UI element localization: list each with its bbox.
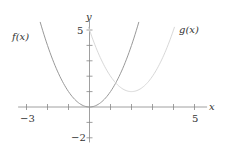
f-label: f(x) bbox=[11, 31, 29, 42]
y-axis-label: y bbox=[85, 11, 92, 22]
tick-label-x-5: 5 bbox=[192, 113, 198, 124]
x-axis-label: x bbox=[209, 101, 215, 112]
curves bbox=[40, 22, 174, 107]
tick-label-y-5: 5 bbox=[77, 25, 83, 36]
chart: f(x) g(x) y x −3 5 5 −2 bbox=[0, 0, 227, 152]
tick-label-x-neg3: −3 bbox=[20, 113, 35, 124]
tick-label-y-neg2: −2 bbox=[71, 132, 86, 143]
labels: f(x) g(x) y x −3 5 5 −2 bbox=[11, 11, 215, 143]
curve-g bbox=[88, 27, 174, 92]
axes bbox=[18, 21, 207, 143]
g-label: g(x) bbox=[179, 24, 199, 35]
